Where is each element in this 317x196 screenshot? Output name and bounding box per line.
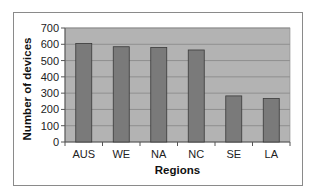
x-axis-title: Regions: [155, 164, 200, 176]
bar-nc: [188, 50, 204, 142]
bar-la: [263, 99, 279, 142]
y-tick-label: 600: [41, 38, 59, 50]
bar-we: [113, 47, 129, 142]
y-tick-label: 700: [41, 22, 59, 34]
y-tick-label: 400: [41, 71, 59, 83]
y-tick-label: 100: [41, 120, 59, 132]
y-axis-title: Number of devices: [21, 38, 33, 141]
y-tick-label: 300: [41, 87, 59, 99]
bar-chart: 0100200300400500600700AUSWENANCSELARegio…: [0, 0, 317, 196]
x-tick-label: LA: [265, 148, 279, 160]
x-tick-label: NC: [188, 148, 204, 160]
bar-se: [226, 96, 242, 142]
x-tick-label: SE: [226, 148, 241, 160]
y-tick-label: 500: [41, 55, 59, 67]
x-tick-label: NA: [151, 148, 167, 160]
y-tick-label: 0: [53, 136, 59, 148]
bar-na: [151, 48, 167, 142]
x-tick-label: AUS: [72, 148, 95, 160]
x-tick-label: WE: [112, 148, 130, 160]
y-tick-label: 200: [41, 103, 59, 115]
plot-area: [65, 28, 290, 142]
bar-aus: [76, 43, 92, 142]
